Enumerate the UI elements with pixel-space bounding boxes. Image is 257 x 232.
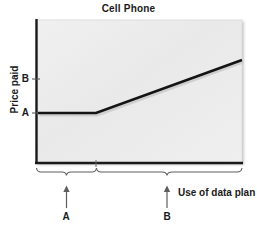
arrow-region-b [164,186,170,209]
arrow-b-head [164,186,170,193]
region-label-b: B [159,211,175,222]
y-tick-label-a: A [15,107,29,118]
bracket-region-a [37,168,97,176]
plot-background [36,20,242,163]
brace-a-path [37,168,97,176]
arrow-a-head [63,186,69,193]
arrow-region-a [63,186,69,209]
chart-title: Cell Phone [0,3,257,14]
x-axis-label: Use of data plan [178,187,255,198]
region-label-a: A [58,211,74,222]
chart-figure: Cell Phone Price paid B A Use of data pl… [0,0,257,232]
plot-area [36,20,242,163]
bracket-region-b [97,168,243,176]
brace-b-path [97,168,243,176]
y-tick-label-b: B [15,73,29,84]
